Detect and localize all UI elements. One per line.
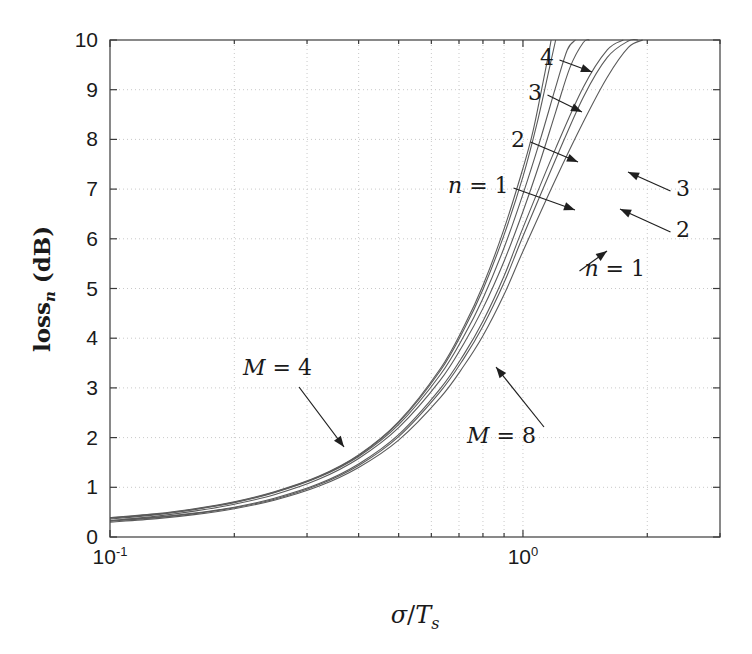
annotation-variable: n — [448, 173, 462, 198]
svg-text:100: 100 — [508, 544, 539, 568]
y-tick-label: 1 — [86, 475, 98, 498]
x-axis-sigma: σ — [391, 601, 408, 629]
y-tick-label: 4 — [86, 326, 98, 349]
y-tick-label: 3 — [86, 376, 98, 399]
y-tick-label: 2 — [86, 426, 98, 449]
x-tick-base: 10 — [508, 545, 531, 568]
annotation-label-a-m8-n2: 2 — [676, 217, 690, 242]
loss-vs-sigma-chart: 432n = 132n = 1M = 4M = 8 012345678910 1… — [0, 0, 752, 654]
y-tick-label: 10 — [75, 28, 98, 51]
x-axis-title: σ/Ts — [391, 601, 440, 633]
svg-text:σ/Ts: σ/Ts — [391, 601, 440, 633]
annotation-label-a-m4-n3: 3 — [528, 80, 542, 105]
x-axis-T-subscript: s — [431, 614, 439, 633]
y-tick-label: 8 — [86, 127, 98, 150]
y-tick-labels: 012345678910 — [75, 28, 99, 548]
svg-text:10-1: 10-1 — [93, 544, 128, 568]
annotation-value: = 8 — [490, 423, 536, 448]
annotation-variable: M — [242, 355, 266, 380]
y-axis-loss-subscript: n — [41, 291, 59, 302]
annotation-value: 3 — [528, 80, 542, 105]
annotation-label-a-m8-n3: 3 — [676, 176, 690, 201]
annotation-label-a-m4-n4: 4 — [540, 45, 554, 70]
y-axis-unit — [28, 283, 55, 291]
annotation-value: = 1 — [462, 173, 508, 198]
annotation-label-a-group-m8: M = 8 — [466, 423, 536, 448]
annotation-value: 4 — [540, 45, 554, 70]
x-tick-label-group: 10-1 — [93, 544, 128, 568]
annotation-label-a-m8-n1: n = 1 — [584, 256, 645, 281]
figure-container: 432n = 132n = 1M = 4M = 8 012345678910 1… — [0, 0, 752, 654]
svg-text:lossn (dB): lossn (dB) — [28, 226, 59, 352]
annotation-value: 2 — [676, 217, 690, 242]
y-tick-label: 9 — [86, 78, 98, 101]
annotation-value: = 1 — [599, 256, 645, 281]
annotation-value: = 4 — [266, 355, 312, 380]
annotation-label-a-group-m4: M = 4 — [242, 355, 312, 380]
y-axis-title: lossn (dB) — [28, 226, 59, 352]
annotation-value: 3 — [676, 176, 690, 201]
y-tick-label: 5 — [86, 277, 98, 300]
annotation-variable: n — [584, 256, 598, 281]
y-tick-label: 7 — [86, 177, 98, 200]
y-axis-unit-text: (dB) — [28, 226, 55, 283]
x-tick-exponent: 0 — [531, 544, 538, 559]
x-tick-labels: 10-1100 — [93, 544, 539, 568]
annotation-value: 2 — [511, 127, 525, 152]
annotation-variable: M — [466, 423, 490, 448]
annotation-label-a-m4-n1: n = 1 — [448, 173, 509, 198]
x-tick-exponent: -1 — [116, 544, 128, 559]
annotation-label-a-m4-n2: 2 — [511, 127, 525, 152]
y-axis-loss: loss — [28, 302, 55, 352]
x-tick-base: 10 — [93, 545, 116, 568]
x-tick-label-group: 100 — [508, 544, 539, 568]
y-tick-label: 6 — [86, 227, 98, 250]
